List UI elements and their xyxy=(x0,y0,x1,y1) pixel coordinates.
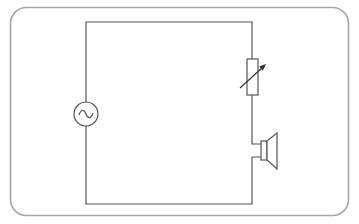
ac-source-icon xyxy=(74,102,98,126)
diagram-frame xyxy=(11,8,349,216)
circuit-diagram: AC circuit with variable resistor and sp… xyxy=(0,0,359,224)
